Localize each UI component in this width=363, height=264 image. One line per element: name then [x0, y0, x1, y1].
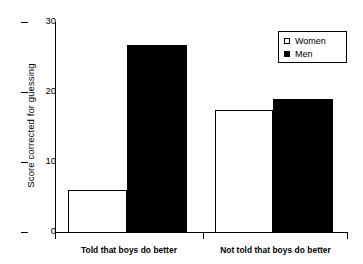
legend: Women Men — [278, 31, 347, 63]
bar-men-told — [127, 45, 187, 232]
x-group-label-not-told: Not told that boys do better — [203, 245, 348, 255]
legend-swatch-filled-square-icon — [284, 51, 290, 57]
bar-women-not-told — [215, 110, 273, 233]
legend-label-women: Women — [295, 37, 326, 46]
legend-entry-women: Women — [284, 35, 346, 47]
x-tick-right — [347, 232, 348, 239]
legend-entry-men: Men — [284, 48, 346, 60]
x-tick-left — [55, 232, 56, 239]
legend-label-men: Men — [295, 50, 313, 59]
x-group-label-told: Told that boys do better — [55, 245, 203, 255]
legend-swatch-open-square-icon — [284, 38, 290, 44]
x-axis-line — [55, 232, 348, 233]
bar-chart: Score corrected for guessing 30 20 10 0 … — [0, 0, 363, 264]
bar-men-not-told — [273, 99, 333, 232]
bar-women-told — [68, 190, 127, 233]
x-tick-middle — [203, 232, 204, 239]
